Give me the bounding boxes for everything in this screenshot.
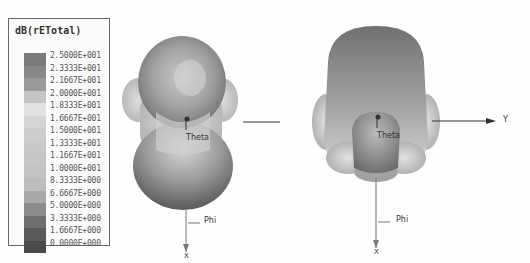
theta-axis-label: Theta [377, 131, 400, 140]
colorbar-tick-label: 1.0000E+001 [50, 163, 101, 176]
colorbar-tick-label: 1.6667E+001 [50, 113, 101, 126]
radiation-pattern-view-2: Y Theta Phi X [290, 0, 530, 263]
colorbar-swatch [24, 78, 46, 91]
colorbar-swatch [24, 191, 46, 204]
colorbar-swatch [24, 141, 46, 154]
colorbar-tick-label: 2.5000E+001 [50, 50, 101, 63]
colorbar-tick-label: 2.3333E+001 [50, 63, 101, 76]
colorbar-tick-label: 0.0000E+000 [50, 238, 101, 251]
colorbar-tick-label: 3.3333E+000 [50, 213, 101, 226]
colorbar-swatch [24, 66, 46, 79]
colorbar-tick-label: 1.5000E+001 [50, 125, 101, 138]
colorbar-swatch [24, 153, 46, 166]
colorbar-swatch [24, 178, 46, 191]
x-axis-label: X [184, 252, 189, 260]
x-axis-label: X [374, 248, 379, 256]
colorbar-swatch [24, 216, 46, 229]
colorbar-tick-label: 8.3333E+000 [50, 175, 101, 188]
colorbar-tick-label: 2.0000E+001 [50, 88, 101, 101]
pattern-3d-shape-2 [290, 0, 530, 263]
colorbar-tick-label: 1.1667E+001 [50, 150, 101, 163]
colorbar [24, 53, 46, 253]
colorbar-tick-label: 1.6667E+000 [50, 225, 101, 238]
colorbar-tick-label: 1.3333E+001 [50, 138, 101, 151]
theta-axis-label: Theta [186, 133, 209, 142]
colorbar-swatch [24, 241, 46, 254]
phi-axis-label: Phi [396, 215, 408, 224]
colorbar-tick-label: 1.8333E+001 [50, 100, 101, 113]
y-axis-label: Y [503, 115, 508, 124]
colorbar-swatch [24, 103, 46, 116]
colorbar-swatch [24, 116, 46, 129]
colorbar-swatch [24, 53, 46, 66]
colorbar-tick-label: 5.0000E+000 [50, 200, 101, 213]
colorbar-swatch [24, 128, 46, 141]
colorbar-legend: dB(rETotal) 2.5000E+0012.3333E+0012.1667… [8, 18, 110, 246]
colorbar-ticks: 2.5000E+0012.3333E+0012.1667E+0012.0000E… [50, 50, 101, 250]
colorbar-swatch [24, 228, 46, 241]
colorbar-tick-label: 6.6667E+000 [50, 188, 101, 201]
colorbar-swatch [24, 91, 46, 104]
radiation-pattern-view-1: Theta Phi X [120, 0, 290, 263]
phi-axis-label: Phi [204, 216, 216, 225]
legend-title: dB(rETotal) [15, 25, 81, 36]
colorbar-swatch [24, 166, 46, 179]
colorbar-tick-label: 2.1667E+001 [50, 75, 101, 88]
colorbar-swatch [24, 203, 46, 216]
